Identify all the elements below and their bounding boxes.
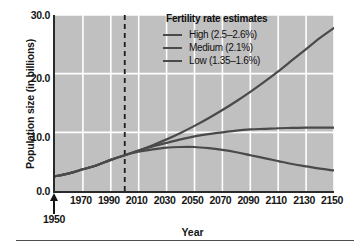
legend-label-low: Low (1.35–1.6%) — [189, 55, 260, 66]
legend-label-medium: Medium (2.1%) — [189, 42, 253, 53]
legend-swatch-high-icon — [163, 34, 182, 36]
bottom-divider — [16, 240, 354, 241]
legend-title: Fertility rate estimates — [166, 13, 313, 24]
x-axis-title: Year — [53, 226, 332, 238]
legend-swatch-low-icon — [163, 60, 182, 62]
legend-label-high: High (2.5–2.6%) — [189, 29, 257, 40]
y-tick-label-10: 10.0 — [14, 131, 50, 143]
y-tick-label-20: 20.0 — [14, 72, 50, 84]
legend: Fertility rate estimates High (2.5–2.6%)… — [163, 13, 313, 67]
x-tick-label-2150: 2150 — [312, 194, 352, 206]
population-projection-chart: Population size (in billions) 30.0 20.0 … — [0, 0, 362, 249]
y-tick-label-30: 30.0 — [14, 9, 50, 21]
legend-swatch-medium-icon — [163, 47, 182, 49]
legend-item-low: Low (1.35–1.6%) — [163, 54, 313, 67]
legend-item-high: High (2.5–2.6%) — [163, 28, 313, 41]
x-axis-tick-labels: 1970199020102030205020702090211021302150 — [53, 194, 332, 210]
legend-entries: High (2.5–2.6%)Medium (2.1%)Low (1.35–1.… — [163, 28, 313, 67]
start-year-label: 1950 — [29, 213, 79, 225]
legend-item-medium: Medium (2.1%) — [163, 41, 313, 54]
